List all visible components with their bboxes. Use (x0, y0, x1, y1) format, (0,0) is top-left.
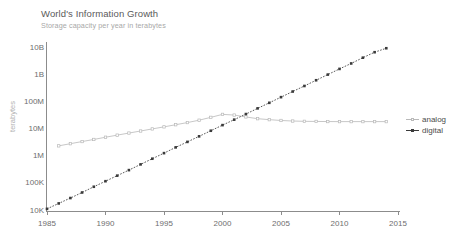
data-point-marker (174, 146, 177, 149)
data-point-marker (291, 90, 294, 93)
legend-swatch-analog-icon (406, 116, 419, 123)
data-point-marker (327, 120, 329, 122)
legend-item-analog[interactable]: analog (406, 114, 446, 125)
data-point-marker (198, 119, 200, 121)
data-point-marker (350, 120, 352, 122)
legend-swatch-digital-icon (406, 127, 419, 134)
chart-container: World's Information Growth Storage capac… (0, 0, 466, 244)
data-point-marker (256, 117, 258, 119)
data-point-marker (373, 120, 375, 122)
data-point-marker (256, 107, 259, 110)
data-point-marker (139, 163, 142, 166)
data-point-marker (233, 114, 235, 116)
data-point-marker (221, 113, 223, 115)
data-point-marker (175, 124, 177, 126)
data-point-marker (81, 140, 83, 142)
data-point-marker (292, 120, 294, 122)
axis-lines (46, 42, 400, 215)
data-point-marker (303, 85, 306, 88)
data-point-marker (151, 128, 153, 130)
data-point-marker (128, 169, 131, 172)
data-point-marker (303, 120, 305, 122)
data-point-marker (315, 79, 318, 82)
data-point-marker (163, 152, 166, 155)
legend-item-digital[interactable]: digital (406, 125, 446, 136)
data-point-marker (46, 208, 49, 211)
data-point-marker (385, 120, 387, 122)
data-point-marker (151, 157, 154, 160)
data-point-marker (221, 124, 224, 127)
data-point-marker (58, 145, 60, 147)
data-point-marker (104, 136, 106, 138)
legend-label: digital (422, 126, 443, 135)
data-point-marker (116, 134, 118, 136)
data-point-marker (93, 138, 95, 140)
data-point-marker (385, 47, 388, 50)
series-digital (46, 47, 388, 210)
data-point-marker (280, 96, 283, 99)
data-point-marker (116, 174, 119, 177)
data-point-marker (210, 129, 213, 132)
data-point-marker (186, 141, 189, 144)
data-point-marker (315, 120, 317, 122)
data-point-marker (163, 126, 165, 128)
data-point-marker (280, 119, 282, 121)
data-point-marker (104, 180, 107, 183)
plot-area (0, 0, 466, 244)
data-point-marker (327, 73, 330, 76)
data-point-marker (81, 191, 84, 194)
data-point-marker (362, 56, 365, 59)
data-point-marker (268, 102, 271, 105)
data-point-marker (128, 132, 130, 134)
data-point-marker (69, 197, 72, 200)
data-point-marker (69, 143, 71, 145)
data-point-marker (362, 120, 364, 122)
data-point-marker (93, 185, 96, 188)
legend-label: analog (422, 115, 446, 124)
data-point-marker (57, 202, 60, 205)
data-point-marker (268, 118, 270, 120)
data-point-marker (373, 51, 376, 54)
legend: analogdigital (406, 114, 446, 136)
series-analog (58, 113, 388, 147)
data-point-marker (350, 62, 353, 65)
data-point-marker (338, 68, 341, 71)
series-line-analog (59, 114, 387, 145)
data-point-marker (245, 116, 247, 118)
data-point-marker (233, 118, 236, 121)
data-point-marker (245, 113, 248, 116)
data-series-group (46, 47, 388, 210)
series-line-digital (47, 48, 386, 209)
data-point-marker (198, 135, 201, 138)
data-point-marker (186, 121, 188, 123)
data-point-marker (139, 130, 141, 132)
data-point-marker (338, 120, 340, 122)
data-point-marker (210, 116, 212, 118)
